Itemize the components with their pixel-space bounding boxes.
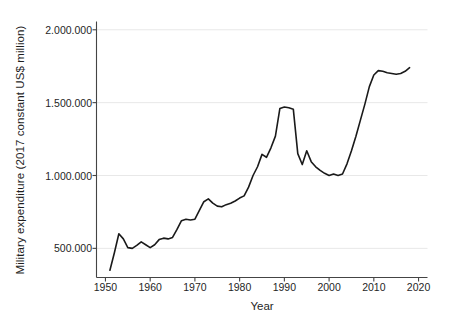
x-axis-label: Year: [96, 300, 428, 312]
x-axis-tick-labels: 19501960197019801990200020102020: [0, 281, 452, 299]
x-tick-label: 1960: [138, 281, 161, 293]
x-tick-label: 2020: [407, 281, 430, 293]
data-series-line: [110, 68, 410, 271]
x-tick-label: 1970: [183, 281, 206, 293]
axis-ticks: [93, 30, 419, 282]
plot-area: [0, 0, 452, 325]
x-tick-label: 1950: [94, 281, 117, 293]
axis-lines: [97, 22, 428, 278]
x-tick-label: 1980: [228, 281, 251, 293]
x-tick-label: 1990: [273, 281, 296, 293]
x-tick-label: 2010: [362, 281, 385, 293]
chart-figure: Military expenditure (2017 constant US$ …: [0, 0, 452, 325]
gridlines: [97, 30, 428, 249]
x-tick-label: 2000: [317, 281, 340, 293]
